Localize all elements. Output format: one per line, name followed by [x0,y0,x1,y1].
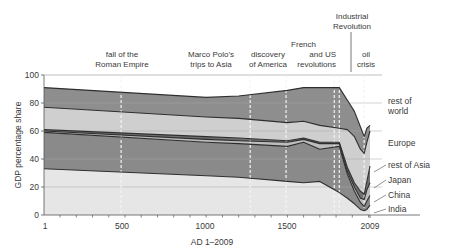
leader-india [374,209,386,213]
x-tick-1: 1 [43,221,48,231]
label-india: India [388,204,407,214]
leader-rest-of-asia [374,165,386,172]
label-china: China [388,190,410,200]
label-rest-of-world-line1: rest of [388,96,412,106]
event-revolutions-line1: French [291,40,316,49]
y-tick-labels: 0 20 40 60 80 100 [25,70,39,220]
x-tick-1000: 1000 [196,221,215,231]
label-rest-of-asia: rest of Asia [388,160,430,170]
event-marco-polo-line1: Marco Polo's [188,50,234,59]
x-tick-500: 500 [115,221,129,231]
region-labels: rest of world Europe rest of Asia Japan … [387,96,430,214]
y-tick-80: 80 [30,98,40,108]
x-axis-title: AD 1–2009 [191,237,234,247]
y-tick-40: 40 [30,154,40,164]
event-fall-of-rome-line1: fall of the [106,50,139,59]
y-tick-20: 20 [30,182,40,192]
x-tick-1500: 1500 [278,221,297,231]
y-axis-title: GDP percentage share [13,101,23,188]
event-industrial-line1: Industrial [336,12,369,21]
event-industrial-line2: Revolution [333,22,371,31]
label-japan: Japan [388,175,411,185]
label-leader-lines [374,165,386,213]
event-discovery-america-line1: discovery [251,50,285,59]
event-oil-crisis-line2: crisis [357,60,375,69]
x-tick-labels: 1 500 1000 1500 2009 [43,221,380,231]
x-tick-2009: 2009 [361,221,380,231]
stacked-areas [44,88,370,215]
event-fall-of-rome-line2: Roman Empire [95,60,149,69]
gdp-share-chart: 0 20 40 60 80 100 1 500 1000 1500 2009 A… [0,0,449,252]
event-marco-polo-line2: trips to Asia [190,60,232,69]
label-rest-of-world-line2: world [387,106,409,116]
event-revolutions-line2: and US [309,50,336,59]
y-tick-0: 0 [34,210,39,220]
y-tick-60: 60 [30,126,40,136]
event-oil-crisis-line1: oil [362,50,370,59]
y-tick-100: 100 [25,70,39,80]
event-annotations: fall of the Roman Empire Marco Polo's tr… [95,12,375,72]
label-europe: Europe [388,138,416,148]
event-revolutions-line3: revolutions [297,60,336,69]
event-discovery-america-line2: of America [249,60,287,69]
leader-china [374,195,386,202]
